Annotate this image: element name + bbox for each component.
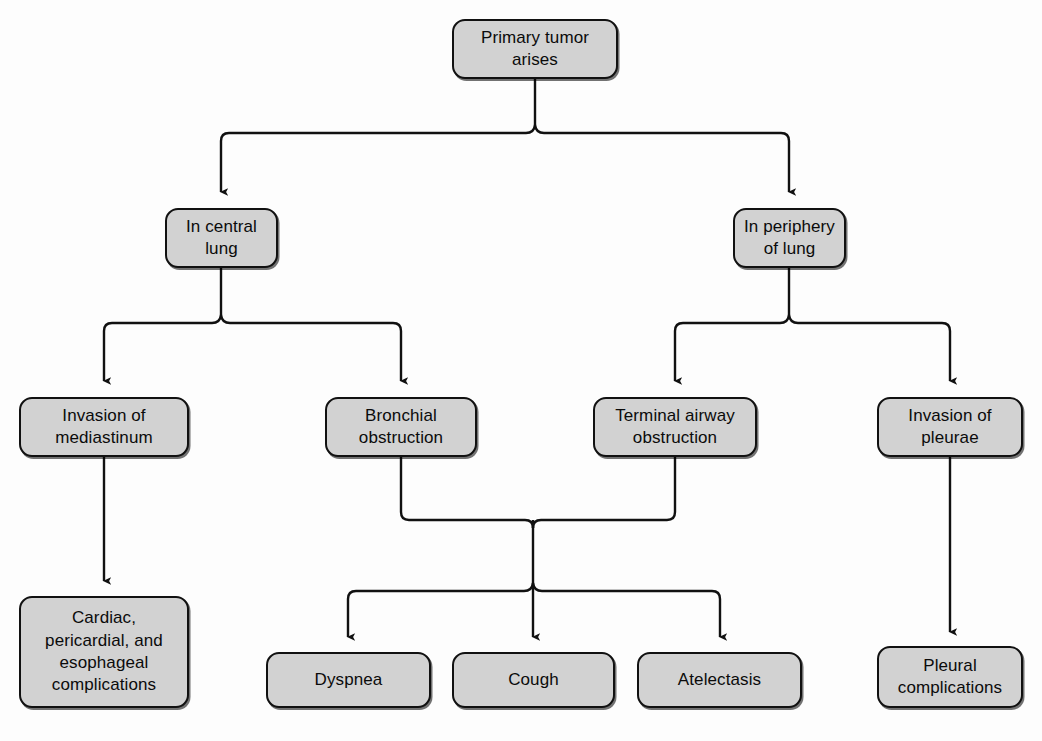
node-label: Pleural complications [879, 655, 1021, 700]
node-label: Dyspnea [268, 669, 429, 691]
edge-merge-to-dyspnea [348, 583, 533, 637]
edge-central-to-mediastinum [104, 315, 221, 381]
node-label: In periphery of lung [735, 216, 844, 261]
node-pleural-complications[interactable]: Pleural complications [877, 646, 1023, 708]
node-label: Atelectasis [639, 669, 800, 691]
node-label: Primary tumor arises [454, 27, 616, 72]
node-in-central-lung[interactable]: In central lung [165, 208, 278, 268]
node-label: Cough [454, 669, 613, 691]
edge-root-to-periphery [535, 125, 789, 192]
node-dyspnea[interactable]: Dyspnea [266, 652, 431, 708]
edge-merge-to-atelectasis [533, 583, 720, 637]
flowchart-canvas: Primary tumor arises In central lung In … [0, 0, 1042, 741]
node-primary-tumor-arises[interactable]: Primary tumor arises [452, 19, 618, 79]
node-label: Invasion of pleurae [879, 405, 1021, 450]
node-in-periphery-of-lung[interactable]: In periphery of lung [733, 208, 846, 268]
node-invasion-of-pleurae[interactable]: Invasion of pleurae [877, 397, 1023, 457]
edge-periphery-to-terminal [675, 315, 789, 381]
node-label: Cardiac, pericardial, and esophageal com… [21, 607, 187, 697]
edge-terminal-to-merge [533, 457, 675, 528]
node-label: In central lung [167, 216, 276, 261]
node-bronchial-obstruction[interactable]: Bronchial obstruction [325, 397, 477, 457]
edge-periphery-to-pleurae [789, 315, 950, 381]
node-atelectasis[interactable]: Atelectasis [637, 652, 802, 708]
edge-bronchial-to-merge [401, 457, 533, 528]
edge-central-to-bronchial [221, 315, 401, 381]
node-invasion-of-mediastinum[interactable]: Invasion of mediastinum [19, 397, 189, 457]
node-cough[interactable]: Cough [452, 652, 615, 708]
node-label: Terminal airway obstruction [595, 405, 755, 450]
edge-root-to-central [221, 125, 535, 192]
node-terminal-airway-obstruction[interactable]: Terminal airway obstruction [593, 397, 757, 457]
node-label: Bronchial obstruction [327, 405, 475, 450]
node-cardiac-pericardial-esophageal-complications[interactable]: Cardiac, pericardial, and esophageal com… [19, 596, 189, 708]
node-label: Invasion of mediastinum [21, 405, 187, 450]
